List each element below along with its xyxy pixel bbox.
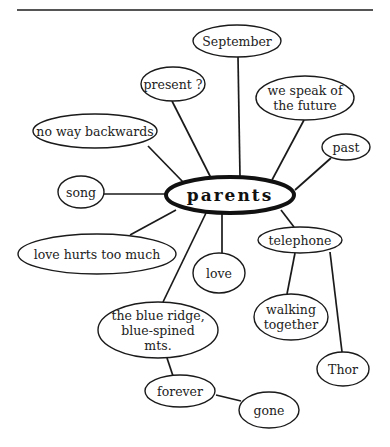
node-love-hurts-too-much: love hurts too much [18, 234, 176, 274]
node-label: love [206, 266, 232, 281]
node-label: love hurts too much [34, 247, 160, 262]
edge-parents-to-september [238, 57, 240, 177]
node-label: past [333, 140, 360, 155]
node-past: past [322, 134, 370, 160]
node-label: we speak of [267, 83, 343, 98]
node-label: gone [254, 403, 285, 418]
node-label: walking [266, 302, 316, 317]
node-label: September [202, 34, 272, 49]
node-label: present ? [144, 77, 203, 92]
edge-parents-to-telephone [281, 210, 294, 227]
node-song: song [58, 176, 104, 208]
node-label: telephone [269, 233, 332, 248]
node-label: Thor [328, 362, 358, 377]
edge-telephone-to-thor [330, 252, 342, 352]
center-label: parents [187, 185, 273, 205]
edge-parents-to-love-hurts-too-much [130, 210, 176, 235]
node-label: song [66, 185, 96, 200]
node-the-blue-ridge: the blue ridge,blue-spinedmts. [98, 302, 218, 358]
node-september: September [193, 25, 281, 57]
cluster-diagram: Septemberpresent ?we speak ofthe futuren… [0, 0, 390, 447]
node-thor: Thor [317, 352, 369, 386]
node-we-speak-of-the-future: we speak ofthe future [256, 76, 354, 120]
edge-telephone-to-walking-together [287, 253, 295, 294]
node-walking-together: walkingtogether [254, 294, 328, 340]
edge-parents-to-we-speak-of-the-future [272, 120, 304, 180]
node-layer: Septemberpresent ?we speak ofthe futuren… [18, 25, 370, 428]
node-telephone: telephone [258, 227, 342, 253]
node-love: love [193, 253, 245, 293]
edge-parents-to-no-way-backwards [148, 146, 183, 182]
node-label: blue-spined [121, 323, 195, 338]
node-label: the blue ridge, [111, 308, 204, 323]
center-node-parents: parents [166, 177, 294, 213]
node-no-way-backwards: no way backwards [33, 114, 157, 148]
node-label: no way backwards [36, 124, 153, 139]
edge-parents-to-present [172, 101, 211, 178]
node-gone: gone [239, 392, 299, 428]
edge-the-blue-ridge-to-forever [167, 358, 173, 376]
node-label: forever [157, 384, 203, 399]
node-present: present ? [141, 67, 205, 101]
node-label: together [264, 317, 318, 332]
edge-parents-to-past [295, 158, 331, 190]
node-label: mts. [144, 338, 171, 353]
node-forever: forever [145, 375, 215, 407]
node-label: the future [273, 98, 337, 113]
edge-forever-to-gone [216, 395, 241, 401]
